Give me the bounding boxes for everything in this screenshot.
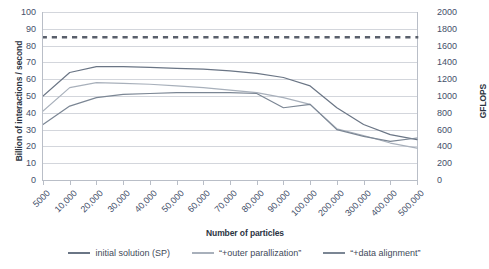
y-axis-tick-label-primary: 10 [12,158,36,168]
y-axis-tick-label-primary: 90 [12,24,36,34]
y-axis-tick-label-primary: 40 [12,108,36,118]
chart-legend: initial solution (SP)“+outer parallizati… [0,248,489,258]
series-line [43,93,417,142]
y-axis-tick-label-primary: 60 [12,74,36,84]
legend-line-icon [68,252,90,254]
legend-item[interactable]: initial solution (SP) [68,248,170,258]
legend-item-label: “+data alignment” [350,248,420,258]
y-axis-tick-label-secondary: 1600 [437,41,463,51]
y-axis-tick-label-secondary: 800 [437,108,463,118]
legend-item[interactable]: “+data alignment” [323,248,420,258]
y-axis-tick-label-primary: 50 [12,91,36,101]
y-axis-tick-label-secondary: 1200 [437,74,463,84]
legend-line-icon [323,252,345,254]
y-axis-tick-label-secondary: 0 [437,175,463,185]
legend-item[interactable]: “+outer parallization” [192,248,301,258]
y-axis-tick-label-secondary: 200 [437,158,463,168]
series-layer [43,12,421,182]
y-axis-tick-label-secondary: 1800 [437,24,463,34]
y-axis-tick-label-primary: 20 [12,141,36,151]
y-axis-tick-label-secondary: 1000 [437,91,463,101]
x-axis-title: Number of particles [140,228,350,238]
y-axis-tick-label-secondary: 600 [437,125,463,135]
y-axis-tick-label-secondary: 400 [437,141,463,151]
y-axis-tick-label-secondary: 1400 [437,57,463,67]
y-axis-tick-label-primary: 30 [12,125,36,135]
y-axis-tick-label-secondary: 2000 [437,7,463,17]
y-axis-tick-label-primary: 100 [12,7,36,17]
y-axis-tick-label-primary: 80 [12,41,36,51]
legend-line-icon [192,252,214,254]
legend-item-label: “+outer parallization” [219,248,301,258]
y-axis-tick-label-primary: 0 [12,175,36,185]
y-axis-title-secondary: GFLOPS [478,39,488,164]
chart-container: Billion of interactions / second GFLOPS … [0,0,489,269]
legend-item-label: initial solution (SP) [95,248,170,258]
series-line [43,67,417,140]
y-axis-tick-label-primary: 70 [12,57,36,67]
